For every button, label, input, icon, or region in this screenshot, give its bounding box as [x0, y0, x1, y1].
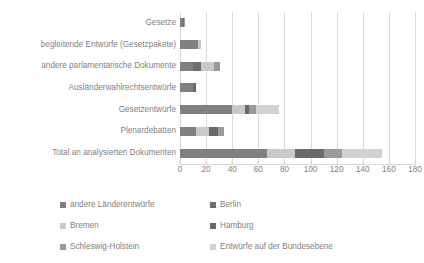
x-axis-tick-label: 60 [254, 165, 263, 174]
legend-label: Berlin [220, 200, 241, 209]
x-axis-tick-label: 80 [280, 165, 289, 174]
legend-label: Schleswig-Holstein [70, 242, 139, 251]
bar-segment [180, 40, 198, 49]
legend-item[interactable]: andere Länderentwürfe [60, 200, 210, 209]
legend-swatch-icon [60, 223, 66, 229]
bar-segment [196, 127, 209, 136]
bar-segment [218, 127, 225, 136]
legend-item[interactable]: Hamburg [210, 221, 380, 230]
bar-segment [193, 62, 201, 71]
legend-item[interactable]: Schleswig-Holstein [60, 242, 210, 251]
x-axis-tick-label: 20 [202, 165, 211, 174]
bar-row [180, 77, 415, 99]
legend-swatch-icon [210, 223, 216, 229]
y-axis-label: Ausländerwahlrechtsentwürfe [0, 83, 176, 92]
bar-segment [232, 105, 245, 114]
stacked-bar [180, 149, 382, 158]
x-axis-tick-label: 140 [356, 165, 370, 174]
bar-row [180, 34, 415, 56]
stacked-bar [180, 83, 196, 92]
bar-row [180, 55, 415, 77]
bar-segment [184, 18, 185, 27]
gridline-180 [415, 12, 416, 164]
y-axis-label: Plenardebatten [0, 126, 176, 135]
bar-chart: Gesetzebegleitende Entwürfe (Gesetzpaket… [0, 0, 424, 263]
bar-row [180, 121, 415, 143]
x-axis-tick-label: 100 [304, 165, 318, 174]
bar-rows [180, 12, 415, 164]
y-axis-label: begleitende Entwürfe (Gesetzpakete) [0, 40, 176, 49]
bar-segment [324, 149, 342, 158]
x-axis-tick-label: 180 [408, 165, 422, 174]
y-axis-labels: Gesetzebegleitende Entwürfe (Gesetzpaket… [0, 12, 176, 164]
legend-label: Hamburg [220, 221, 254, 230]
x-axis-ticks: 020406080100120140160180 [180, 165, 415, 179]
x-axis-tick-label: 40 [228, 165, 237, 174]
bar-segment [256, 105, 280, 114]
stacked-bar [180, 62, 220, 71]
bar-segment [295, 149, 324, 158]
legend-label: andere Länderentwürfe [70, 200, 155, 209]
y-axis-label: Total an analysierten Dokumenten [0, 148, 176, 157]
legend-swatch-icon [210, 202, 216, 208]
legend-swatch-icon [210, 244, 216, 250]
stacked-bar [180, 40, 201, 49]
stacked-bar [180, 105, 279, 114]
legend-label: Entwürfe auf der Bundesebene [220, 242, 333, 251]
legend-item[interactable]: Bremen [60, 221, 210, 230]
bar-segment [193, 83, 196, 92]
legend-swatch-icon [60, 244, 66, 250]
legend-item[interactable]: Berlin [210, 200, 380, 209]
bar-segment [180, 149, 267, 158]
x-axis-tick-label: 0 [178, 165, 183, 174]
bar-segment [267, 149, 294, 158]
legend-swatch-icon [60, 202, 66, 208]
bar-segment [180, 105, 232, 114]
bar-segment [180, 62, 193, 71]
stacked-bar [180, 18, 185, 27]
bar-segment [180, 83, 193, 92]
y-axis-label: Gesetzentwürfe [0, 105, 176, 114]
bar-row [180, 12, 415, 34]
plot-area [180, 12, 415, 164]
bar-segment [198, 40, 201, 49]
bar-segment [342, 149, 382, 158]
bar-segment [201, 62, 214, 71]
bar-segment [214, 62, 221, 71]
y-axis-label: Gesetze [0, 18, 176, 27]
legend-label: Bremen [70, 221, 99, 230]
bar-segment [209, 127, 218, 136]
legend-item[interactable]: Entwürfe auf der Bundesebene [210, 242, 380, 251]
stacked-bar [180, 127, 224, 136]
legend: andere LänderentwürfeBerlinBremenHamburg… [60, 194, 380, 257]
x-axis-tick-label: 160 [382, 165, 396, 174]
x-axis-tick-label: 120 [330, 165, 344, 174]
bar-segment [180, 127, 196, 136]
bar-row [180, 99, 415, 121]
y-axis-label: andere parlamentarische Dokumente [0, 61, 176, 70]
bar-row [180, 142, 415, 164]
